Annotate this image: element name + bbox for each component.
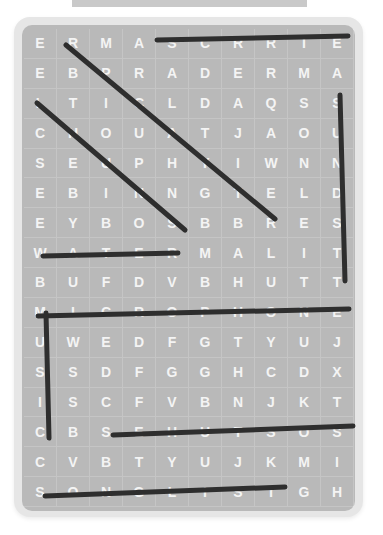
letter-cell[interactable]: S	[222, 477, 255, 507]
letter-cell[interactable]: S	[90, 417, 123, 447]
letter-cell[interactable]: H	[222, 268, 255, 298]
letter-cell[interactable]: G	[189, 358, 222, 388]
letter-cell[interactable]: A	[222, 89, 255, 119]
letter-cell[interactable]: S	[57, 358, 90, 388]
letter-cell[interactable]: O	[156, 298, 189, 328]
letter-cell[interactable]: M	[189, 238, 222, 268]
letter-cell[interactable]: U	[189, 447, 222, 477]
letter-cell[interactable]: B	[189, 268, 222, 298]
letter-cell[interactable]: S	[24, 149, 57, 179]
letter-cell[interactable]: R	[255, 59, 288, 89]
letter-cell[interactable]: R	[123, 59, 156, 89]
letter-cell[interactable]: E	[24, 208, 57, 238]
letter-cell[interactable]: H	[156, 417, 189, 447]
letter-cell[interactable]: N	[156, 178, 189, 208]
letter-cell[interactable]: H	[57, 119, 90, 149]
letter-cell[interactable]: D	[123, 328, 156, 358]
letter-cell[interactable]: I	[222, 149, 255, 179]
letter-cell[interactable]: H	[222, 358, 255, 388]
letter-cell[interactable]: A	[156, 119, 189, 149]
letter-cell[interactable]: L	[24, 89, 57, 119]
letter-cell[interactable]: W	[255, 149, 288, 179]
letter-cell[interactable]: D	[123, 268, 156, 298]
letter-cell[interactable]: O	[255, 298, 288, 328]
letter-cell[interactable]: U	[321, 119, 354, 149]
letter-cell[interactable]: V	[57, 447, 90, 477]
letter-cell[interactable]: T	[321, 388, 354, 418]
letter-cell[interactable]: L	[255, 238, 288, 268]
letter-cell[interactable]: K	[288, 388, 321, 418]
letter-cell[interactable]: S	[24, 477, 57, 507]
letter-cell[interactable]: E	[24, 59, 57, 89]
letter-cell[interactable]: N	[222, 388, 255, 418]
letter-cell[interactable]: T	[255, 477, 288, 507]
letter-cell[interactable]: V	[156, 388, 189, 418]
letter-cell[interactable]: I	[288, 29, 321, 59]
letter-cell[interactable]: D	[90, 358, 123, 388]
letter-cell[interactable]: C	[24, 447, 57, 477]
letter-cell[interactable]: S	[57, 388, 90, 418]
letter-cell[interactable]: N	[288, 149, 321, 179]
letter-cell[interactable]: J	[222, 447, 255, 477]
letter-cell[interactable]: M	[24, 298, 57, 328]
letter-cell[interactable]: M	[90, 29, 123, 59]
letter-cell[interactable]: A	[57, 238, 90, 268]
letter-cell[interactable]: H	[321, 477, 354, 507]
letter-cell[interactable]: P	[189, 298, 222, 328]
letter-cell[interactable]: D	[189, 59, 222, 89]
letter-cell[interactable]: T	[222, 178, 255, 208]
letter-cell[interactable]: A	[123, 29, 156, 59]
letter-cell[interactable]: R	[222, 29, 255, 59]
letter-cell[interactable]: D	[288, 358, 321, 388]
letter-cell[interactable]: O	[288, 119, 321, 149]
letter-cell[interactable]: E	[123, 417, 156, 447]
letter-cell[interactable]: B	[222, 208, 255, 238]
letter-cell[interactable]: B	[57, 178, 90, 208]
letter-cell[interactable]: X	[321, 358, 354, 388]
letter-cell[interactable]: W	[24, 238, 57, 268]
letter-cell[interactable]: R	[57, 29, 90, 59]
letter-cell[interactable]: T	[321, 238, 354, 268]
letter-cell[interactable]: B	[57, 59, 90, 89]
letter-cell[interactable]: S	[321, 208, 354, 238]
letter-cell[interactable]: F	[156, 328, 189, 358]
letter-cell[interactable]: N	[321, 149, 354, 179]
letter-cell[interactable]: T	[222, 417, 255, 447]
letter-cell[interactable]: U	[189, 417, 222, 447]
letter-cell[interactable]: J	[255, 388, 288, 418]
letter-cell[interactable]: H	[222, 298, 255, 328]
letter-cell[interactable]: C	[24, 417, 57, 447]
letter-cell[interactable]: E	[57, 149, 90, 179]
letter-cell[interactable]: N	[90, 477, 123, 507]
letter-cell[interactable]: E	[255, 178, 288, 208]
letter-cell[interactable]: P	[123, 149, 156, 179]
letter-cell[interactable]: I	[24, 388, 57, 418]
letter-cell[interactable]: A	[156, 59, 189, 89]
letter-cell[interactable]: O	[123, 208, 156, 238]
letter-cell[interactable]: L	[156, 477, 189, 507]
letter-cell[interactable]: E	[321, 29, 354, 59]
letter-cell[interactable]: T	[90, 238, 123, 268]
letter-cell[interactable]: I	[57, 298, 90, 328]
letter-cell[interactable]: U	[255, 268, 288, 298]
letter-cell[interactable]: E	[222, 59, 255, 89]
letter-cell[interactable]: C	[90, 388, 123, 418]
letter-cell[interactable]: B	[189, 388, 222, 418]
letter-cell[interactable]: J	[222, 119, 255, 149]
letter-cell[interactable]: F	[123, 358, 156, 388]
letter-cell[interactable]: U	[90, 149, 123, 179]
letter-cell[interactable]: J	[321, 328, 354, 358]
letter-cell[interactable]: H	[156, 149, 189, 179]
letter-cell[interactable]: B	[189, 208, 222, 238]
letter-cell[interactable]: A	[222, 238, 255, 268]
letter-cell[interactable]: U	[24, 328, 57, 358]
letter-cell[interactable]: S	[321, 89, 354, 119]
letter-cell[interactable]: O	[90, 119, 123, 149]
letter-cell[interactable]: S	[288, 89, 321, 119]
letter-cell[interactable]: I	[189, 477, 222, 507]
letter-cell[interactable]: D	[189, 89, 222, 119]
letter-cell[interactable]: O	[57, 477, 90, 507]
letter-cell[interactable]: O	[288, 417, 321, 447]
letter-cell[interactable]: Y	[156, 447, 189, 477]
letter-cell[interactable]: N	[288, 298, 321, 328]
